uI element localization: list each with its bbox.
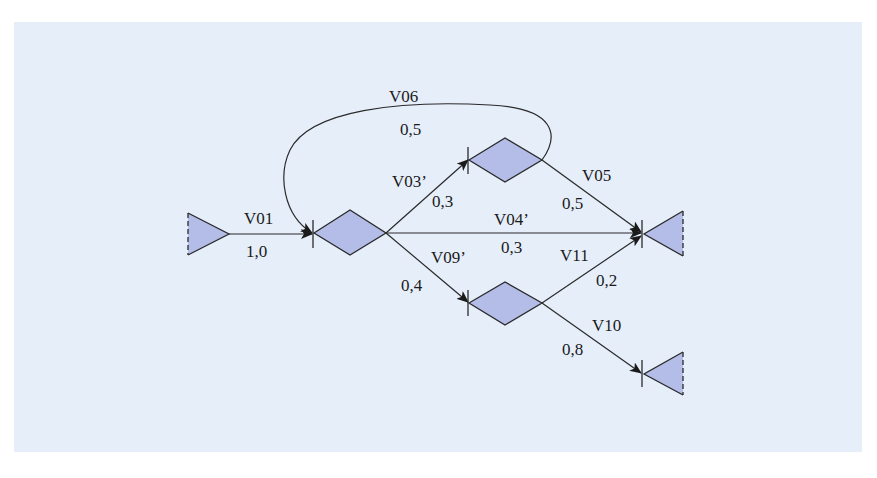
edge-v03-name: V03’ <box>392 172 427 191</box>
decision-node-2 <box>468 138 542 182</box>
edge-v11-prob: 0,2 <box>596 271 617 290</box>
edge-v03-prob: 0,3 <box>432 192 453 211</box>
sink-node-b <box>642 352 683 395</box>
decision-node-1 <box>313 210 386 255</box>
edge-v09-prob: 0,4 <box>401 276 423 295</box>
source-node <box>188 213 229 255</box>
edge-v05-name: V05 <box>582 166 611 185</box>
edge-v01: V01 1,0 <box>229 209 312 261</box>
edge-v04-prob: 0,3 <box>501 238 522 257</box>
edge-v06-prob: 0,5 <box>400 120 421 139</box>
edge-v04: V04’ 0,3 <box>386 210 641 257</box>
edge-v01-prob: 1,0 <box>246 242 267 261</box>
edge-v05-prob: 0,5 <box>562 194 583 213</box>
edge-v03: V03’ 0,3 <box>386 160 468 233</box>
edge-v10-name: V10 <box>592 316 621 335</box>
edge-v10: V10 0,8 <box>542 303 641 373</box>
edge-v10-prob: 0,8 <box>562 340 583 359</box>
edge-v09-name: V09’ <box>431 248 466 267</box>
edge-v11: V11 0,2 <box>542 236 641 303</box>
edge-v04-name: V04’ <box>494 210 529 229</box>
flow-diagram: V01 1,0 V06 0,5 V03’ 0,3 V05 0,5 V04’ 0,… <box>0 0 877 478</box>
edge-v06-name: V06 <box>389 87 418 106</box>
decision-node-3 <box>468 282 542 325</box>
sink-node-a <box>642 211 683 256</box>
edge-v11-name: V11 <box>560 246 589 265</box>
edge-v05: V05 0,5 <box>542 160 641 232</box>
edge-v01-name: V01 <box>244 209 273 228</box>
edge-v09: V09’ 0,4 <box>386 233 468 302</box>
